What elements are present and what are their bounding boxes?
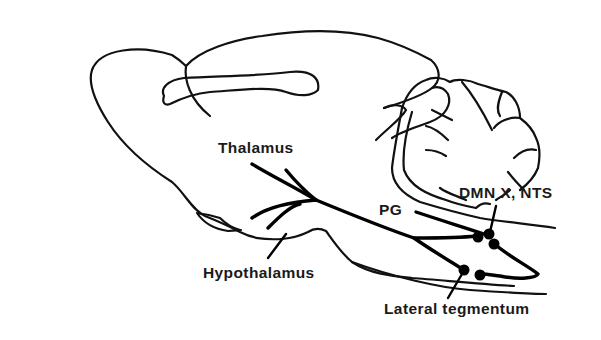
label-dmn-x-nts: DMN X, NTS (459, 185, 553, 201)
label-pg: PG (379, 202, 402, 218)
nucleus-dot-lateral-tegmentum-2 (475, 270, 486, 281)
brain-outline-drawing (0, 0, 601, 340)
label-thalamus: Thalamus (218, 140, 294, 156)
nucleus-dot-dmn (484, 229, 495, 240)
nucleus-dot-pg (473, 232, 484, 243)
pg-pathway (416, 212, 484, 234)
nucleus-dot-lateral-tegmentum-1 (459, 265, 470, 276)
label-hypothalamus: Hypothalamus (203, 265, 315, 281)
brain-diagram: Thalamus PG DMN X, NTS Hypothalamus Late… (0, 0, 601, 340)
lateral-tegmentum-pointer-line (448, 274, 462, 298)
cerebral-hemisphere-outline (186, 31, 439, 108)
hypothalamus-pointer-line (268, 234, 286, 258)
hypothalamic-projection (252, 200, 316, 228)
lateral-tegmentum-pathway (414, 238, 464, 270)
cerebellum-folia (426, 82, 536, 190)
label-lateral-tegmentum: Lateral tegmentum (384, 301, 529, 317)
thalamic-projection (252, 164, 316, 200)
nucleus-dot-nts (489, 239, 500, 250)
